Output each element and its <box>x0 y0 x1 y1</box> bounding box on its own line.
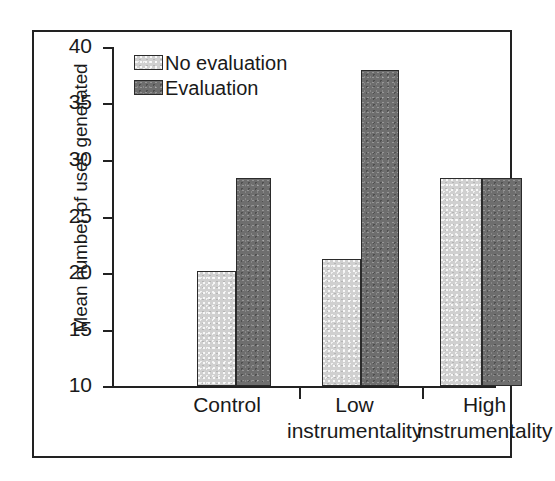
y-axis-tick-label: 35 <box>52 91 92 113</box>
x-axis-labels: Control Low instrumentality High instrum… <box>112 392 512 452</box>
figure-frame: Mean number of uses generated 40 35 30 2… <box>32 30 512 458</box>
y-axis-title: Mean number of uses generated <box>70 33 92 363</box>
y-axis-tick: 15 <box>103 330 112 332</box>
y-axis-tick-label: 20 <box>52 261 92 283</box>
bar-low-instrumentality-no-evaluation[interactable] <box>322 259 361 386</box>
x-axis-label-control-line1: Control <box>193 393 261 416</box>
legend-swatch-evaluation <box>134 80 163 95</box>
y-axis-tick: 30 <box>103 160 112 162</box>
bar-control-evaluation[interactable] <box>236 178 271 386</box>
y-axis-tick: 40 <box>103 47 112 49</box>
legend-label-no-evaluation: No evaluation <box>165 53 287 73</box>
legend-label-evaluation: Evaluation <box>165 78 258 98</box>
y-axis-tick: 20 <box>103 273 112 275</box>
bar-high-instrumentality-no-evaluation[interactable] <box>440 178 482 386</box>
y-axis-tick: 25 <box>103 217 112 219</box>
x-axis-label-high-instrumentality: High instrumentality <box>417 392 552 444</box>
y-axis-tick: 35 <box>103 103 112 105</box>
y-axis-tick-label: 10 <box>52 374 92 396</box>
y-axis-tick-label: 15 <box>52 318 92 340</box>
legend-swatch-no-evaluation <box>134 55 163 70</box>
x-axis-label-high-line1: High <box>463 393 506 416</box>
x-axis-label-low-line1: Low <box>335 393 374 416</box>
plot-area: 40 35 30 25 20 15 10 <box>112 47 496 386</box>
legend-item-evaluation: Evaluation <box>134 75 287 100</box>
bar-control-no-evaluation[interactable] <box>197 271 236 386</box>
x-axis-line <box>112 386 496 388</box>
y-axis-tick-label: 40 <box>52 35 92 57</box>
legend: No evaluation Evaluation <box>134 50 287 100</box>
y-axis-tick-label: 25 <box>52 205 92 227</box>
bar-high-instrumentality-evaluation[interactable] <box>482 178 522 386</box>
x-axis-label-high-line2: instrumentality <box>417 418 552 444</box>
legend-item-no-evaluation: No evaluation <box>134 50 287 75</box>
y-axis-line <box>112 47 114 386</box>
x-axis-label-low-line2: instrumentality <box>287 418 422 444</box>
y-axis-tick: 10 <box>103 386 112 388</box>
x-axis-label-control: Control <box>172 392 282 418</box>
x-axis-label-low-instrumentality: Low instrumentality <box>287 392 422 444</box>
y-axis-tick-label: 30 <box>52 148 92 170</box>
bar-low-instrumentality-evaluation[interactable] <box>361 70 399 386</box>
